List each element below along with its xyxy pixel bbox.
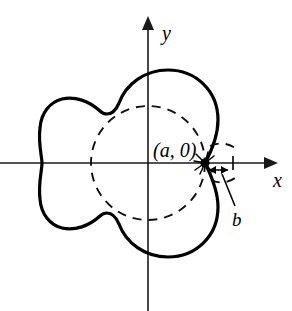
- polar-curve-figure: y x (a, 0) b: [0, 0, 292, 311]
- figure-container: y x (a, 0) b: [0, 0, 292, 311]
- x-axis-label: x: [272, 169, 282, 191]
- dimension-b-label: b: [232, 209, 242, 230]
- figure-background: [0, 0, 292, 311]
- cusp-point-dot: [200, 158, 209, 167]
- cusp-point-label: (a, 0): [153, 139, 197, 162]
- y-axis-label: y: [160, 22, 171, 45]
